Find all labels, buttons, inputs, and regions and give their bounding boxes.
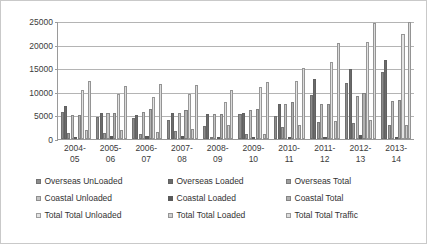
x-axis-tick-label: 2005-06 (93, 143, 129, 169)
bar (195, 85, 198, 139)
legend-label: Total Total Traffic (295, 211, 358, 220)
legend-item[interactable]: Overseas Total (286, 177, 394, 186)
bar (408, 22, 411, 139)
x-axis-tick-label: 2010-11 (271, 143, 307, 169)
legend-swatch-icon (168, 213, 173, 218)
bar-group (343, 22, 379, 139)
x-axis-tick-label: 2004-05 (57, 143, 93, 169)
y-axis-tick-label: 15000 (9, 65, 53, 74)
y-axis-tick (55, 140, 58, 141)
x-axis-tick-line: 11 (271, 154, 307, 165)
legend-label: Coastal Total (295, 194, 344, 203)
x-axis-tick-label: 2013-14 (378, 143, 414, 169)
x-axis-tick-line: 2004- (57, 143, 93, 154)
x-axis-tick-label: 2008-09 (200, 143, 236, 169)
bar (320, 104, 323, 139)
legend-row: Overseas UnLoadedOverseas LoadedOverseas… (9, 173, 420, 190)
legend-item[interactable]: Total Total Unloaded (36, 211, 168, 220)
x-axis-tick-line: 2006- (128, 143, 164, 154)
legend-row: Coastal UnloadedCoastal LoadedCoastal To… (9, 190, 420, 207)
x-axis-tick-label: 2006-07 (128, 143, 164, 169)
legend-swatch-icon (36, 213, 41, 218)
chart-container: 0500010000150002000025000 2004-052005-06… (0, 0, 427, 244)
legend-swatch-icon (286, 179, 291, 184)
legend-swatch-icon (286, 213, 291, 218)
bar (284, 104, 287, 139)
bar (206, 114, 209, 139)
legend-swatch-icon (286, 196, 291, 201)
legend-item[interactable]: Total Total Traffic (286, 211, 394, 220)
x-axis-tick-line: 2007- (164, 143, 200, 154)
bar-group (378, 22, 414, 139)
legend-label: Overseas Loaded (177, 177, 244, 186)
bar-group (165, 22, 201, 139)
x-axis-tick-line: 10 (236, 154, 272, 165)
bar (266, 82, 269, 139)
x-axis-tick-line: 09 (200, 154, 236, 165)
bar-series-layer (58, 22, 414, 139)
legend-label: Coastal Unloaded (45, 194, 113, 203)
x-axis-tick-label: 2011-12 (307, 143, 343, 169)
bar (259, 87, 262, 139)
bar (159, 84, 162, 139)
legend-label: Total Total Unloaded (45, 211, 122, 220)
legend-label: Overseas Total (295, 177, 352, 186)
x-axis-tick-line: 2011- (307, 143, 343, 154)
bar-group (236, 22, 272, 139)
x-axis-tick-line: 14 (378, 154, 414, 165)
legend-item[interactable]: Overseas UnLoaded (36, 177, 168, 186)
bar (230, 90, 233, 139)
legend-item[interactable]: Overseas Loaded (168, 177, 286, 186)
x-axis: 2004-052005-062006-072007-082008-092009-… (57, 143, 414, 169)
x-axis-tick-line: 13 (343, 154, 379, 165)
x-axis-tick-line: 2008- (200, 143, 236, 154)
legend-swatch-icon (36, 196, 41, 201)
legend-swatch-icon (168, 196, 173, 201)
legend-label: Total Total Loaded (177, 211, 246, 220)
bar (337, 43, 340, 139)
bar (124, 86, 127, 139)
x-axis-tick-line: 2013- (378, 143, 414, 154)
x-axis-tick-line: 2012- (343, 143, 379, 154)
y-axis-tick-label: 25000 (9, 18, 53, 27)
bar (391, 101, 394, 139)
bar (71, 115, 74, 139)
bar (302, 68, 305, 139)
y-axis-tick-label: 5000 (9, 112, 53, 121)
legend-item[interactable]: Coastal Unloaded (36, 194, 168, 203)
x-axis-tick-label: 2009-10 (236, 143, 272, 169)
x-axis-tick-label: 2012-13 (343, 143, 379, 169)
x-axis-tick-line: 06 (93, 154, 129, 165)
y-axis-tick-label: 20000 (9, 41, 53, 50)
x-axis-tick-line: 2010- (271, 143, 307, 154)
x-axis-tick-line: 2009- (236, 143, 272, 154)
y-axis-tick-label: 10000 (9, 89, 53, 98)
bar-group (307, 22, 343, 139)
plot-area (57, 22, 414, 140)
bar-group (94, 22, 130, 139)
bar (88, 81, 91, 139)
legend-swatch-icon (36, 179, 41, 184)
x-axis-tick-label: 2007-08 (164, 143, 200, 169)
y-axis-tick-label: 0 (9, 136, 53, 145)
legend-item[interactable]: Coastal Loaded (168, 194, 286, 203)
bar-group (272, 22, 308, 139)
legend-item[interactable]: Coastal Total (286, 194, 394, 203)
chart-legend: Overseas UnLoadedOverseas LoadedOverseas… (1, 173, 427, 224)
bar (142, 112, 145, 139)
x-axis-tick-line: 08 (164, 154, 200, 165)
x-axis-tick-line: 12 (307, 154, 343, 165)
legend-row: Total Total UnloadedTotal Total LoadedTo… (9, 207, 420, 224)
bar (213, 114, 216, 139)
legend-item[interactable]: Total Total Loaded (168, 211, 286, 220)
legend-swatch-icon (168, 179, 173, 184)
y-axis: 0500010000150002000025000 (9, 17, 53, 141)
bar (373, 23, 376, 139)
bar-group (200, 22, 236, 139)
x-axis-tick-line: 2005- (93, 143, 129, 154)
bar-group (129, 22, 165, 139)
bar (401, 34, 404, 139)
x-axis-tick-line: 07 (128, 154, 164, 165)
legend-label: Coastal Loaded (177, 194, 237, 203)
x-axis-tick-line: 05 (57, 154, 93, 165)
